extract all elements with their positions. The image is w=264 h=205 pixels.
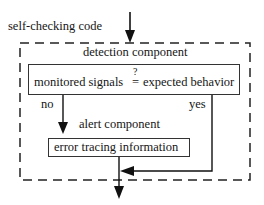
- alert-component-title: alert component: [79, 117, 160, 131]
- condition-left: monitored signals: [34, 75, 123, 90]
- condition-right: expected behavior: [143, 75, 234, 90]
- output-arrowhead-icon: [114, 186, 124, 199]
- input-arrowhead-icon: [125, 30, 135, 43]
- yes-branch-label: yes: [189, 97, 206, 111]
- yes-arrowhead-icon: [120, 166, 134, 176]
- condition-operator: =: [132, 75, 139, 90]
- no-branch-label: no: [41, 97, 54, 111]
- alert-box-text: error tracing information: [54, 140, 178, 155]
- no-arrowhead-icon: [58, 122, 68, 134]
- detection-component-title: detection component: [83, 45, 187, 59]
- input-label: self-checking code: [8, 19, 102, 33]
